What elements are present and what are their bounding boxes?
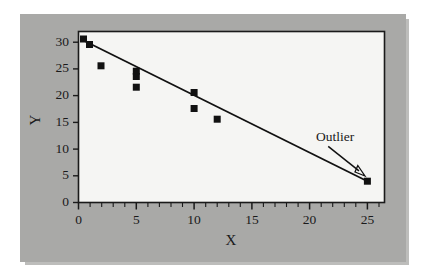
- data-point: [86, 41, 93, 48]
- data-point: [133, 84, 140, 91]
- y-tick-label-30: 30: [56, 34, 70, 49]
- x-tick-label-0: 0: [75, 212, 82, 227]
- y-tick-label-15: 15: [56, 114, 70, 129]
- x-tick-label-25: 25: [361, 212, 375, 227]
- data-point: [214, 116, 221, 123]
- figure-root: 0 5 10 15 20 25 30 Y: [0, 0, 426, 275]
- data-point: [191, 105, 198, 112]
- data-point: [80, 36, 87, 43]
- y-tick-label-25: 25: [56, 60, 70, 75]
- data-point-outlier: [364, 178, 371, 185]
- y-tick-label-10: 10: [56, 141, 70, 156]
- y-tick-label-0: 0: [62, 194, 69, 209]
- scatter-plot-figure: 0 5 10 15 20 25 30 Y: [0, 0, 426, 275]
- x-tick-label-10: 10: [187, 212, 201, 227]
- plot-background: [79, 32, 385, 203]
- x-tick-label-20: 20: [303, 212, 317, 227]
- outlier-annotation-label: Outlier: [316, 129, 355, 144]
- plot-area: [79, 32, 385, 203]
- x-axis-label: X: [226, 232, 237, 248]
- data-point: [98, 62, 105, 69]
- data-point: [191, 89, 198, 96]
- y-tick-label-5: 5: [62, 167, 69, 182]
- data-point: [133, 73, 140, 80]
- y-axis-label: Y: [27, 114, 43, 125]
- x-tick-label-5: 5: [133, 212, 140, 227]
- y-tick-label-20: 20: [56, 87, 70, 102]
- x-tick-label-15: 15: [245, 212, 259, 227]
